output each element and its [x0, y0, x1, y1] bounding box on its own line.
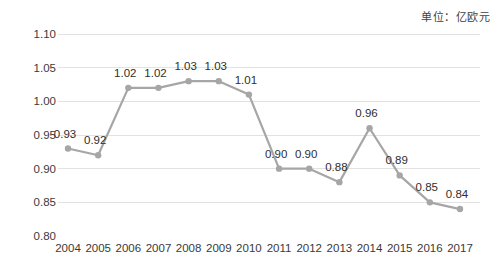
y-axis-tick-label: 0.90 — [4, 163, 56, 175]
x-axis-tick-label: 2008 — [176, 242, 202, 254]
y-axis-tick-label: 0.80 — [4, 230, 56, 242]
data-point-label: 0.90 — [295, 148, 317, 160]
y-axis-tick-labels: 1.101.051.000.950.900.850.80 — [0, 34, 56, 236]
y-axis-tick-label: 1.10 — [4, 28, 56, 40]
x-axis-tick-label: 2010 — [236, 242, 262, 254]
data-point-marker — [65, 145, 71, 151]
unit-note-label: 单位：亿欧元 — [421, 8, 490, 24]
x-axis-tick-label: 2017 — [447, 242, 473, 254]
data-point-marker — [396, 172, 402, 178]
data-point-label: 0.88 — [325, 161, 347, 173]
line-chart: 单位：亿欧元 1.101.051.000.950.900.850.80 2004… — [0, 0, 502, 259]
data-point-label: 0.90 — [265, 148, 287, 160]
data-point-label: 0.93 — [54, 128, 76, 140]
data-point-label: 0.92 — [84, 134, 106, 146]
data-point-marker — [306, 165, 312, 171]
data-point-marker — [457, 206, 463, 212]
y-axis-tick-label: 0.85 — [4, 196, 56, 208]
data-point-label: 1.02 — [114, 67, 136, 79]
y-axis-tick-label: 1.00 — [4, 95, 56, 107]
data-point-label: 1.02 — [144, 67, 166, 79]
x-axis-tick-label: 2006 — [116, 242, 142, 254]
data-point-label: 0.89 — [385, 154, 407, 166]
data-point-marker — [276, 165, 282, 171]
data-point-marker — [125, 85, 131, 91]
series-line — [68, 81, 460, 209]
x-axis-tick-label: 2009 — [206, 242, 232, 254]
plot-area — [58, 34, 480, 236]
data-point-marker — [336, 179, 342, 185]
data-point-marker — [95, 152, 101, 158]
data-point-marker — [155, 85, 161, 91]
data-point-label: 1.03 — [174, 60, 196, 72]
x-axis-tick-label: 2012 — [296, 242, 322, 254]
data-point-label: 0.96 — [355, 107, 377, 119]
x-axis-tick-label: 2016 — [417, 242, 443, 254]
data-point-marker — [427, 199, 433, 205]
x-axis-tick-label: 2014 — [357, 242, 383, 254]
x-axis-tick-label: 2007 — [146, 242, 172, 254]
data-point-marker — [216, 78, 222, 84]
x-axis-tick-label: 2005 — [85, 242, 111, 254]
chart-canvas — [58, 34, 480, 236]
y-axis-tick-label: 0.95 — [4, 129, 56, 141]
x-axis-tick-label: 2011 — [267, 242, 292, 254]
data-point-label: 1.03 — [205, 60, 227, 72]
data-point-label: 0.84 — [446, 188, 468, 200]
x-axis-tick-label: 2013 — [327, 242, 353, 254]
data-point-label: 1.01 — [235, 74, 257, 86]
data-point-label: 0.85 — [416, 181, 438, 193]
y-axis-tick-label: 1.05 — [4, 62, 56, 74]
data-point-marker — [246, 91, 252, 97]
data-point-marker — [366, 125, 372, 131]
x-axis-tick-label: 2004 — [55, 242, 81, 254]
data-point-marker — [185, 78, 191, 84]
x-axis-tick-label: 2015 — [387, 242, 413, 254]
